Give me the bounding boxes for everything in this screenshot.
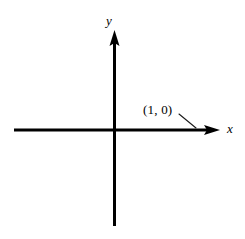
axes-svg: [0, 0, 245, 239]
point-label-leader-line: [179, 114, 196, 128]
y-axis-label: y: [106, 14, 112, 27]
point-coordinate-label: (1, 0): [143, 103, 172, 116]
coordinate-axes-figure: y x (1, 0): [0, 0, 245, 239]
x-axis-label: x: [227, 122, 233, 135]
